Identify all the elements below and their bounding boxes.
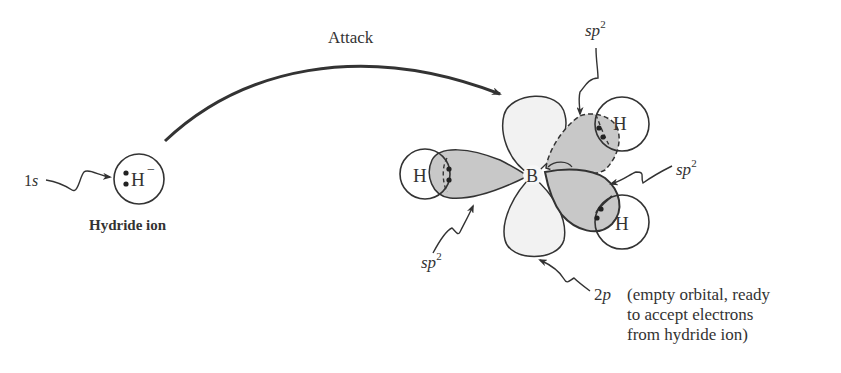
- sp2-label-top: sp2: [585, 18, 606, 40]
- 2p-description-line-2: to accept electrons: [627, 305, 754, 324]
- hydride-ion-label: Hydride ion: [89, 217, 167, 233]
- 1s-pointer: [46, 171, 110, 191]
- svg-text:H: H: [613, 113, 627, 134]
- 2p-description-line-1: (empty orbital, ready: [627, 285, 771, 304]
- sp2-pointer-top: [579, 48, 598, 114]
- attack-arrow: [165, 66, 500, 141]
- hydride-atom: H: [131, 169, 145, 190]
- 2p-description-line-3: from hydride ion): [627, 325, 748, 344]
- svg-text:H: H: [413, 165, 427, 186]
- 2p-pointer: [540, 260, 590, 291]
- 1s-label: 1s: [24, 172, 38, 189]
- electron-dot: [123, 181, 128, 186]
- sp2-pointer-right: [611, 166, 672, 184]
- sp2-label-right: sp2: [676, 157, 697, 179]
- sp2-pointer-bottom-left: [433, 206, 473, 253]
- electron-dot: [123, 170, 128, 175]
- 2p-label: 2p: [594, 285, 611, 304]
- boron-atom: B: [526, 166, 538, 186]
- orbital-diagram: Attack H − Hydride ion 1s B H: [0, 0, 841, 373]
- sp2-label-bottom-left: sp2: [421, 250, 442, 272]
- hydride-ion: H −: [114, 154, 164, 204]
- svg-text:H: H: [615, 213, 629, 234]
- hydride-charge: −: [147, 162, 155, 177]
- boron-orbitals: B: [429, 96, 619, 256]
- hydrogen-left: H: [400, 149, 452, 199]
- attack-label: Attack: [328, 28, 374, 47]
